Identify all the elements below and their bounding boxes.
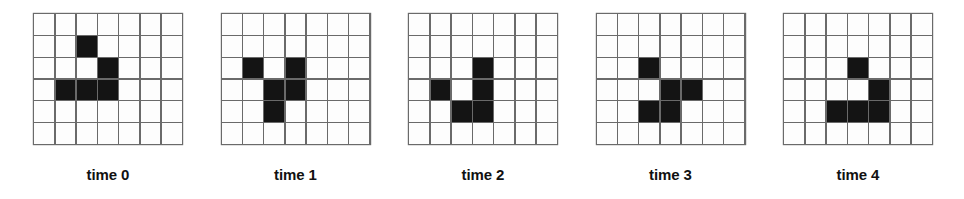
cell-empty — [682, 58, 702, 78]
cell-empty — [349, 14, 369, 34]
cell-empty — [286, 123, 306, 143]
cell-empty — [618, 101, 638, 121]
cell-empty — [827, 58, 847, 78]
cell-empty — [661, 14, 681, 34]
cell-filled — [639, 101, 659, 121]
caption-row: time 0 time 1 time 2 time 3 time 4 — [33, 163, 933, 187]
cell-empty — [848, 80, 868, 100]
cell-filled — [682, 80, 702, 100]
cell-empty — [473, 14, 493, 34]
cell-empty — [307, 101, 327, 121]
cell-empty — [349, 36, 369, 56]
grid-panel — [221, 13, 371, 145]
cell-empty — [869, 36, 889, 56]
cell-empty — [162, 36, 182, 56]
cell-empty — [328, 80, 348, 100]
cell-filled — [286, 58, 306, 78]
cell-empty — [516, 14, 536, 34]
cell-grid — [783, 13, 933, 145]
grid-panel-row — [33, 13, 933, 145]
cell-grid — [596, 13, 746, 145]
cell-empty — [141, 101, 161, 121]
cell-empty — [452, 80, 472, 100]
cell-empty — [119, 123, 139, 143]
cell-empty — [243, 36, 263, 56]
grid-panel — [596, 13, 746, 145]
cell-empty — [537, 14, 557, 34]
cell-filled — [848, 58, 868, 78]
cell-empty — [618, 36, 638, 56]
cell-empty — [222, 80, 242, 100]
cell-empty — [77, 58, 97, 78]
cell-empty — [286, 36, 306, 56]
cell-empty — [516, 58, 536, 78]
cell-empty — [784, 123, 804, 143]
cell-filled — [431, 80, 451, 100]
cell-empty — [597, 58, 617, 78]
cell-empty — [912, 101, 932, 121]
cell-empty — [703, 36, 723, 56]
cell-empty — [724, 123, 744, 143]
cell-grid — [221, 13, 371, 145]
cell-empty — [494, 101, 514, 121]
cell-filled — [661, 80, 681, 100]
cell-empty — [222, 14, 242, 34]
cell-empty — [827, 36, 847, 56]
cell-empty — [77, 101, 97, 121]
cell-filled — [264, 80, 284, 100]
cell-empty — [243, 101, 263, 121]
cell-empty — [639, 36, 659, 56]
cell-empty — [473, 36, 493, 56]
cell-empty — [431, 58, 451, 78]
cell-empty — [682, 101, 702, 121]
cell-empty — [409, 101, 429, 121]
cell-empty — [724, 36, 744, 56]
cell-empty — [661, 36, 681, 56]
cell-empty — [222, 123, 242, 143]
cell-empty — [891, 101, 911, 121]
cell-empty — [409, 58, 429, 78]
cell-empty — [222, 58, 242, 78]
cell-empty — [848, 123, 868, 143]
cell-empty — [703, 14, 723, 34]
cell-empty — [119, 58, 139, 78]
cell-filled — [639, 58, 659, 78]
panel-caption-time-1: time 1 — [221, 165, 371, 185]
cell-empty — [431, 36, 451, 56]
cell-empty — [724, 14, 744, 34]
cell-empty — [682, 36, 702, 56]
cell-empty — [784, 36, 804, 56]
grid-panel — [33, 13, 183, 145]
cell-empty — [827, 14, 847, 34]
cell-empty — [409, 80, 429, 100]
cell-empty — [141, 123, 161, 143]
cell-empty — [912, 123, 932, 143]
cell-empty — [307, 58, 327, 78]
cell-empty — [494, 123, 514, 143]
cell-empty — [661, 123, 681, 143]
cell-empty — [34, 123, 54, 143]
cell-empty — [724, 58, 744, 78]
cell-empty — [119, 14, 139, 34]
cell-empty — [77, 123, 97, 143]
cell-empty — [162, 80, 182, 100]
cell-filled — [286, 80, 306, 100]
cell-empty — [597, 123, 617, 143]
cell-empty — [452, 14, 472, 34]
cell-empty — [141, 14, 161, 34]
cell-empty — [639, 80, 659, 100]
cell-empty — [98, 14, 118, 34]
cell-empty — [307, 80, 327, 100]
cell-empty — [537, 101, 557, 121]
grid-panel — [408, 13, 558, 145]
cell-filled — [243, 58, 263, 78]
cell-empty — [891, 58, 911, 78]
cell-empty — [494, 80, 514, 100]
cell-empty — [891, 36, 911, 56]
cell-empty — [703, 58, 723, 78]
cell-empty — [56, 36, 76, 56]
cell-empty — [349, 123, 369, 143]
cell-empty — [243, 80, 263, 100]
cell-empty — [34, 80, 54, 100]
cell-empty — [162, 101, 182, 121]
